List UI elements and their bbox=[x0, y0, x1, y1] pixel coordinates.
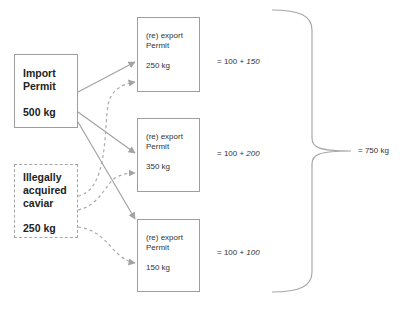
export-permit-box-2: (re) export Permit 350 kg bbox=[137, 118, 200, 192]
export-1-equation: = 100 + 150 bbox=[217, 57, 260, 66]
equation-italic-value: 100 bbox=[246, 248, 259, 257]
equation-italic-value: 200 bbox=[246, 149, 259, 158]
import-title-line1: Import bbox=[23, 67, 56, 79]
export-2-title-line1: (re) export bbox=[146, 132, 183, 141]
export-2-title-line2: Permit bbox=[146, 142, 169, 151]
illegal-title-line3: caviar bbox=[23, 197, 53, 209]
export-permit-box-3: (re) export Permit 150 kg bbox=[137, 219, 200, 292]
arrow-import-to-export-1 bbox=[78, 62, 135, 92]
equation-prefix: = 100 + bbox=[217, 57, 246, 66]
connector-layer bbox=[0, 0, 405, 311]
curly-brace-icon bbox=[272, 10, 351, 292]
export-2-amount: 350 kg bbox=[146, 162, 199, 172]
illegal-caviar-box: Illegally acquired caviar 250 kg bbox=[14, 164, 78, 238]
export-1-amount: 250 kg bbox=[146, 61, 199, 71]
equation-prefix: = 100 + bbox=[217, 248, 246, 257]
equation-italic-value: 150 bbox=[246, 57, 259, 66]
dashed-arrow-illegal-to-export-1 bbox=[78, 82, 135, 196]
export-3-title-line2: Permit bbox=[146, 243, 169, 252]
total-label: = 750 kg bbox=[358, 146, 389, 155]
export-permit-box-1: (re) export Permit 250 kg bbox=[137, 17, 200, 92]
arrow-import-to-export-2 bbox=[78, 112, 135, 153]
arrow-import-to-export-3 bbox=[78, 122, 135, 219]
export-3-amount: 150 kg bbox=[146, 263, 199, 273]
illegal-amount: 250 kg bbox=[23, 222, 77, 235]
export-2-equation: = 100 + 200 bbox=[217, 149, 260, 158]
illegal-title-line2: acquired bbox=[23, 184, 67, 196]
dashed-arrow-illegal-to-export-3 bbox=[78, 227, 135, 263]
illegal-title-line1: Illegally bbox=[23, 171, 62, 183]
export-3-equation: = 100 + 100 bbox=[217, 248, 260, 257]
equation-prefix: = 100 + bbox=[217, 149, 246, 158]
import-permit-box: Import Permit 500 kg bbox=[14, 54, 78, 128]
export-1-title-line2: Permit bbox=[146, 41, 169, 50]
export-1-title-line1: (re) export bbox=[146, 31, 183, 40]
import-title-line2: Permit bbox=[23, 80, 56, 92]
export-3-title-line1: (re) export bbox=[146, 233, 183, 242]
import-amount: 500 kg bbox=[23, 106, 77, 119]
